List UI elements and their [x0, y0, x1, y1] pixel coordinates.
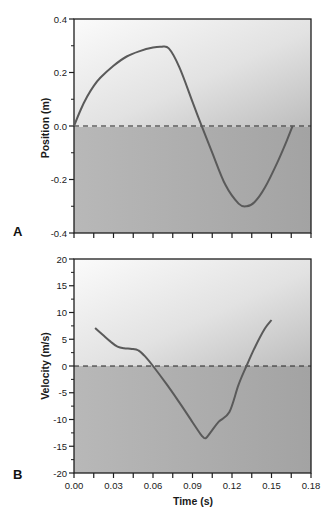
- panel-b-bg-lower: [74, 366, 311, 473]
- panel-a: 0.40.20.0-0.2-0.4 Position (m) A: [13, 14, 311, 240]
- y-tick-label: 0: [62, 361, 67, 372]
- y-tick-label: 0.4: [54, 14, 67, 25]
- panel-b-bg-upper: [74, 259, 311, 366]
- x-tick-label: 0.09: [183, 480, 202, 491]
- y-tick-label: 10: [56, 307, 67, 318]
- y-tick-label: -20: [53, 468, 67, 479]
- x-tick-label: 0.15: [262, 480, 281, 491]
- figure: 0.40.20.0-0.2-0.4 Position (m) A 2015105…: [0, 0, 331, 522]
- x-tick-label: 0.06: [144, 480, 163, 491]
- y-tick-label: -10: [53, 414, 67, 425]
- y-tick-label: 5: [62, 334, 67, 345]
- y-tick-label: -0.4: [51, 228, 67, 239]
- y-tick-label: 20: [56, 254, 67, 265]
- y-tick-label: 0.2: [54, 67, 67, 78]
- panel-a-bg-upper: [74, 19, 311, 127]
- y-tick-label: 15: [56, 280, 67, 291]
- y-tick-label: 0.0: [54, 121, 67, 132]
- x-tick-label: 0.12: [223, 480, 242, 491]
- panel-a-bg-lower: [74, 127, 311, 233]
- position-axis-title: Position (m): [39, 98, 51, 159]
- panel-b: 20151050-5-10-15-200.000.030.060.090.120…: [13, 254, 320, 508]
- y-tick-label: -5: [59, 387, 67, 398]
- x-tick-label: 0.18: [302, 480, 321, 491]
- panel-a-letter: A: [13, 224, 23, 239]
- panel-b-letter: B: [13, 467, 22, 482]
- time-axis-title: Time (s): [173, 495, 213, 507]
- velocity-axis-title: Velocity (m/s): [39, 332, 51, 400]
- y-tick-label: -15: [53, 441, 67, 452]
- x-tick-label: 0.03: [104, 480, 123, 491]
- y-tick-label: -0.2: [51, 174, 67, 185]
- x-tick-label: 0.00: [65, 480, 84, 491]
